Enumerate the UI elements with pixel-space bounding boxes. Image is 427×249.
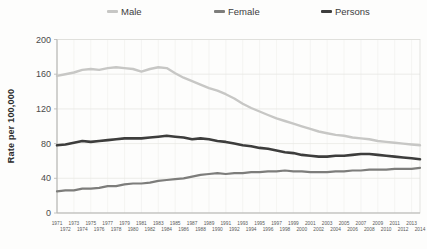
svg-text:1997: 1997 [271,221,282,226]
svg-text:200: 200 [36,35,51,45]
svg-text:1972: 1972 [60,227,71,232]
y-axis-labels: 04080120160200 [36,35,57,219]
svg-text:1985: 1985 [170,221,181,226]
svg-text:1986: 1986 [178,227,189,232]
svg-text:2010: 2010 [381,227,392,232]
svg-text:120: 120 [36,104,51,114]
svg-text:1976: 1976 [94,227,105,232]
svg-text:1995: 1995 [254,221,265,226]
svg-text:1998: 1998 [280,227,291,232]
svg-text:1979: 1979 [119,221,130,226]
svg-text:1978: 1978 [111,227,122,232]
svg-text:1999: 1999 [288,221,299,226]
svg-text:1980: 1980 [128,227,139,232]
svg-text:2013: 2013 [406,221,417,226]
svg-text:1991: 1991 [220,221,231,226]
svg-text:1981: 1981 [136,221,147,226]
svg-text:2008: 2008 [364,227,375,232]
svg-text:1987: 1987 [187,221,198,226]
svg-text:2005: 2005 [339,221,350,226]
svg-text:2012: 2012 [398,227,409,232]
svg-text:1971: 1971 [52,221,63,226]
svg-text:1996: 1996 [263,227,274,232]
svg-text:1982: 1982 [145,227,156,232]
svg-text:1989: 1989 [204,221,215,226]
svg-text:2000: 2000 [296,227,307,232]
svg-text:1974: 1974 [77,227,88,232]
grid-horizontal [57,40,420,179]
female-line [57,168,420,191]
svg-text:2007: 2007 [356,221,367,226]
svg-text:80: 80 [41,139,51,149]
male-line [57,67,420,145]
svg-text:1988: 1988 [195,227,206,232]
svg-text:1977: 1977 [102,221,113,226]
svg-text:1992: 1992 [229,227,240,232]
svg-text:40: 40 [41,173,51,183]
svg-text:1990: 1990 [212,227,223,232]
svg-text:2003: 2003 [322,221,333,226]
x-axis-labels: 1971197219731974197519761977197819791980… [52,221,426,232]
chart-svg: 0408012016020019711972197319741975197619… [0,0,427,249]
svg-text:2009: 2009 [372,221,383,226]
svg-text:2004: 2004 [330,227,341,232]
svg-text:1993: 1993 [237,221,248,226]
svg-text:1984: 1984 [161,227,172,232]
svg-text:1983: 1983 [153,221,164,226]
chart-figure: Male Female Persons Rate per 100,000 040… [0,0,427,249]
svg-text:160: 160 [36,69,51,79]
svg-text:1973: 1973 [69,221,80,226]
svg-text:0: 0 [46,208,51,218]
svg-text:1994: 1994 [246,227,257,232]
svg-text:1975: 1975 [85,221,96,226]
svg-text:2006: 2006 [347,227,358,232]
svg-text:2002: 2002 [313,227,324,232]
svg-text:2001: 2001 [305,221,316,226]
svg-text:2014: 2014 [415,227,426,232]
svg-text:2011: 2011 [390,221,401,226]
